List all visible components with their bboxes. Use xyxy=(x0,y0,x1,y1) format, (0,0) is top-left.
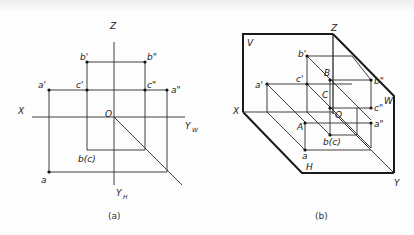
label-c-dprime-b: c" xyxy=(374,103,383,113)
label-h: H xyxy=(306,162,313,172)
label-w: W xyxy=(384,96,394,106)
label-b-prime: b' xyxy=(80,52,88,62)
label-yw-sub: W xyxy=(192,126,199,133)
label-b-dprime-b: b" xyxy=(374,76,384,86)
label-z: Z xyxy=(109,21,117,31)
label-yh-sub: H xyxy=(123,193,128,200)
figure-a: Z X O Y W Y H b' b" a' c' c" a" b(c) a (… xyxy=(17,21,199,221)
label-a-prime: a' xyxy=(38,80,46,90)
label-y-b: Y xyxy=(394,178,401,188)
label-origin: O xyxy=(105,109,112,119)
label-c-prime: c' xyxy=(76,80,83,90)
label-x: X xyxy=(17,106,25,116)
caption-a: (a) xyxy=(108,211,121,221)
label-bc: b(c) xyxy=(78,154,96,164)
label-c-dprime: c" xyxy=(147,80,156,90)
label-origin-b: O xyxy=(335,110,342,120)
diagonal-45 xyxy=(114,117,182,185)
label-z-b: Z xyxy=(330,23,338,33)
figure-b: Z V X W H Y O b' a' c' B b" C c" a" A b(… xyxy=(232,23,401,221)
label-yh: Y xyxy=(116,188,123,198)
label-x-b: X xyxy=(232,106,240,116)
v-plane-edge xyxy=(243,34,333,112)
label-a-dprime: a" xyxy=(171,85,181,95)
label-a-prime-b: a' xyxy=(255,80,263,90)
label-b-dprime: b" xyxy=(147,52,157,62)
label-yw: Y xyxy=(185,121,192,131)
label-B: B xyxy=(324,68,330,78)
label-a: a xyxy=(41,175,47,185)
label-c-prime-b: c' xyxy=(296,74,303,84)
projection-diagram: Z X O Y W Y H b' b" a' c' c" a" b(c) a (… xyxy=(0,0,414,235)
label-a-b: a xyxy=(302,151,308,161)
caption-b: (b) xyxy=(315,211,328,221)
y-axis-b xyxy=(333,112,394,173)
label-a-dprime-b: a" xyxy=(374,119,384,129)
label-C: C xyxy=(322,90,329,100)
label-b-prime-b: b' xyxy=(298,49,306,59)
label-bc-b: b(c) xyxy=(323,137,341,147)
label-A: A xyxy=(296,122,303,132)
label-v: V xyxy=(247,38,254,48)
